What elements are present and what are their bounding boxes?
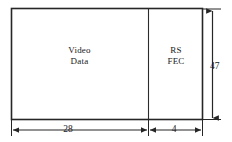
diagram-canvas: Video Data RS FEC 28 4 47 [0,0,232,142]
block-label-video-data: Video Data [11,45,148,67]
dimension-label-height-frame: 47 [210,61,230,72]
dimension-label-width-video-data: 28 [56,124,80,135]
diagram-vector-layer [0,0,232,142]
dimension-label-width-rs-fec: 4 [164,124,184,135]
block-label-rs-fec: RS FEC [149,45,203,67]
